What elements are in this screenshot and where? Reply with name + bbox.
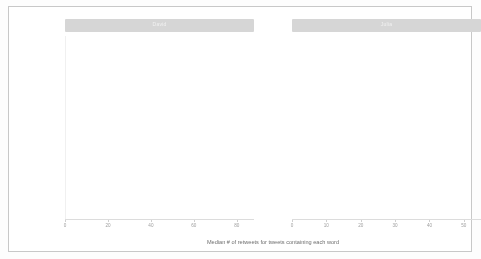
x-axis-tick — [395, 220, 396, 222]
facet-strip-label-julia: Julia — [292, 21, 481, 27]
facet-panel-julia: Julia 01020304050 — [292, 19, 481, 219]
x-axis-tick-label: 80 — [234, 223, 239, 228]
x-axis-tick — [361, 220, 362, 222]
gridline — [65, 36, 66, 219]
plot-area-julia — [292, 36, 481, 219]
x-axis-tick-label: 20 — [358, 223, 363, 228]
x-axis-tick-label: 50 — [461, 223, 466, 228]
x-axis-tick-label: 20 — [105, 223, 110, 228]
x-axis: 01020304050 — [292, 220, 481, 230]
x-axis-tick — [151, 220, 152, 222]
x-axis-tick-label: 40 — [148, 223, 153, 228]
facet-strip-julia: Julia — [292, 19, 481, 32]
x-axis-tick — [108, 220, 109, 222]
x-axis-tick — [237, 220, 238, 222]
x-axis-tick-label: 10 — [324, 223, 329, 228]
x-axis-tick-label: 40 — [427, 223, 432, 228]
x-axis-tick-label: 0 — [64, 223, 67, 228]
x-axis-tick-label: 60 — [191, 223, 196, 228]
plot-area-david — [65, 36, 254, 219]
x-axis-tick — [292, 220, 293, 222]
facet-strip-david: David — [65, 19, 254, 32]
x-axis-tick-label: 0 — [291, 223, 294, 228]
x-axis-tick — [429, 220, 430, 222]
x-axis-tick-label: 30 — [393, 223, 398, 228]
x-axis-tick — [464, 220, 465, 222]
x-axis: 020406080 — [65, 220, 254, 230]
x-axis-title: Median # of retweets for tweets containi… — [65, 239, 481, 245]
x-axis-tick — [326, 220, 327, 222]
facet-panel-david: David 020406080 — [65, 19, 254, 219]
x-axis-tick — [65, 220, 66, 222]
facet-strip-label-david: David — [65, 21, 254, 27]
plot-frame: David 020406080 Julia 01020304050 Median… — [8, 6, 472, 252]
chart-figure: David 020406080 Julia 01020304050 Median… — [0, 0, 481, 259]
x-axis-tick — [194, 220, 195, 222]
